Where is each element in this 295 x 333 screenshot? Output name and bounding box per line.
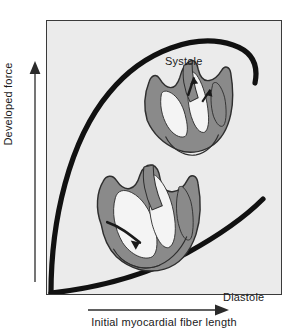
x-axis-arrow bbox=[88, 303, 230, 317]
annotation-diastole: Diastole bbox=[223, 291, 264, 303]
plot-area: Systole Diastole bbox=[46, 20, 282, 295]
x-axis-label: Initial myocardial fiber length bbox=[46, 316, 282, 328]
annotation-systole: Systole bbox=[165, 55, 202, 67]
y-axis-label: Developed force bbox=[2, 54, 14, 154]
y-axis-arrow bbox=[27, 60, 43, 285]
diastolic-heart-illustration bbox=[97, 165, 200, 271]
plot-graphics bbox=[47, 21, 281, 294]
systolic-heart-illustration bbox=[145, 61, 233, 156]
figure-frank-starling-curve: Systole Diastole Developed force Initial… bbox=[0, 0, 295, 333]
